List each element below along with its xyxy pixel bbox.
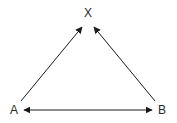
node-a-label: A — [10, 103, 18, 117]
causal-diagram: X A B — [0, 0, 177, 123]
diagram-svg: X A B — [0, 0, 177, 123]
node-x-label: X — [84, 6, 92, 20]
edge-a-to-x — [21, 27, 82, 101]
node-b-label: B — [158, 103, 166, 117]
edge-b-to-x — [94, 27, 155, 101]
